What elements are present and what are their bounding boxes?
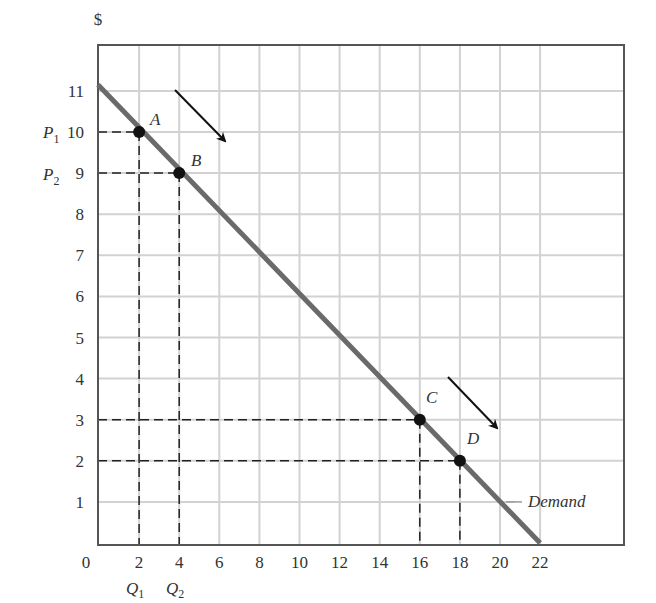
y-tick-label: 8 (76, 205, 85, 224)
y-tick-label: 1 (76, 493, 85, 512)
price-label-p2: P2 (42, 165, 59, 188)
demand-chart: 2468101214161820221234567891011 $ 0 P1 P… (0, 0, 656, 603)
y-tick-label: 11 (68, 82, 84, 101)
arrow-icon (175, 90, 225, 141)
y-tick-label: 9 (76, 164, 85, 183)
demand-curve (98, 85, 540, 543)
x-tick-label: 20 (492, 553, 509, 572)
price-label-p1: P1 (42, 123, 59, 146)
y-axis-unit: $ (94, 10, 103, 29)
point-label-a: A (149, 110, 161, 129)
x-tick-label: 4 (175, 553, 184, 572)
y-tick-label: 6 (76, 287, 85, 306)
x-tick-label: 18 (451, 553, 468, 572)
quantity-label-q2: Q2 (166, 579, 184, 601)
x-tick-label: 10 (291, 553, 308, 572)
x-tick-label: 16 (411, 553, 428, 572)
quantity-label-q1: Q1 (126, 579, 144, 601)
x-tick-label: 6 (215, 553, 224, 572)
y-tick-label: 7 (76, 246, 85, 265)
x-tick-label: 14 (371, 553, 389, 572)
demand-line (98, 85, 540, 543)
point-label-d: D (466, 429, 480, 448)
point-label-c: C (426, 388, 438, 407)
y-tick-label: 10 (67, 123, 84, 142)
x-tick-label: 22 (532, 553, 549, 572)
y-tick-label: 2 (76, 452, 85, 471)
point-b (173, 167, 185, 179)
point-a (133, 126, 145, 138)
x-tick-label: 12 (331, 553, 348, 572)
point-label-b: B (191, 151, 202, 170)
x-tick-label: 2 (135, 553, 144, 572)
movement-arrows (175, 90, 497, 428)
y-tick-label: 4 (76, 370, 85, 389)
x-tick-label: 8 (255, 553, 264, 572)
plot-frame (98, 45, 624, 545)
demand-label: Demand (527, 492, 586, 511)
point-d (454, 455, 466, 467)
y-tick-label: 5 (76, 329, 85, 348)
y-tick-label: 3 (76, 411, 85, 430)
grid-lines (98, 45, 624, 545)
origin-label: 0 (82, 553, 91, 572)
point-c (414, 414, 426, 426)
